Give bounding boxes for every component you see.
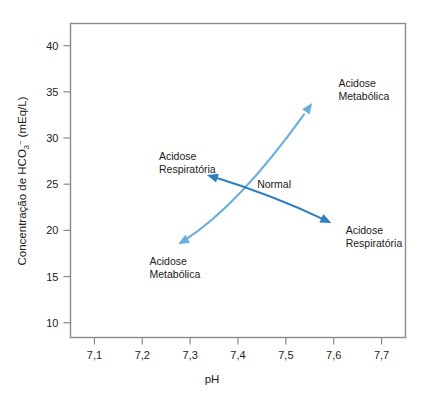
y-tick-label: 20 [46, 224, 58, 236]
x-tick-label: 7,2 [135, 349, 150, 361]
annotation-line: Metabólica [339, 90, 390, 102]
y-tick-label: 35 [46, 86, 58, 98]
annotation-line: Respiratória [159, 163, 216, 175]
annotation-line: Normal [257, 178, 291, 190]
x-tick-label: 7,7 [374, 349, 389, 361]
annotation-line: Acidose [159, 150, 197, 162]
annotation-line: Respiratória [346, 237, 403, 249]
y-tick-label: 10 [46, 317, 58, 329]
x-axis-ticks: 7,17,27,37,47,57,67,7 [87, 338, 389, 361]
x-tick-label: 7,3 [182, 349, 197, 361]
y-tick-label: 40 [46, 40, 58, 52]
annotation-normal: Normal [257, 178, 291, 190]
y-axis-ticks: 10152025303540 [46, 40, 70, 329]
x-tick-label: 7,4 [230, 349, 245, 361]
annotation-line: Acidose [346, 224, 384, 236]
annotation-line: Metabólica [149, 268, 200, 280]
y-axis-title-tail: (mEq/L) [16, 96, 28, 140]
svg-text:Concentração de HCO3− (mEq/L): Concentração de HCO3− (mEq/L) [16, 96, 31, 265]
y-axis-title-lead: Concentração de HCO [16, 149, 28, 265]
annotation-line: Acidose [339, 77, 377, 89]
plot-frame [71, 24, 406, 338]
x-tick-label: 7,6 [326, 349, 341, 361]
acid-base-chart: 10152025303540 7,17,27,37,47,57,67,7 Con… [0, 0, 426, 405]
y-axis-title: Concentração de HCO3− (mEq/L) [16, 96, 31, 265]
y-tick-label: 30 [46, 132, 58, 144]
x-tick-label: 7,1 [87, 349, 102, 361]
x-tick-label: 7,5 [278, 349, 293, 361]
y-tick-label: 25 [46, 178, 58, 190]
annotation-line: Acidose [149, 255, 187, 267]
chart-figure: 10152025303540 7,17,27,37,47,57,67,7 Con… [0, 0, 426, 405]
y-tick-label: 15 [46, 271, 58, 283]
x-axis-title: pH [205, 373, 220, 385]
